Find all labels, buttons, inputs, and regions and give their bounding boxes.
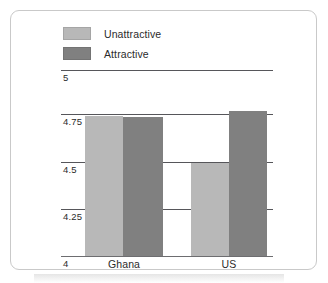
gridline-4-baseline: [61, 256, 273, 257]
plot-area: 5 4.75 4.5 4.25 4 Ghana US: [11, 11, 317, 270]
xtick-label-us: US: [198, 258, 260, 270]
ytick-label-5: 5: [63, 72, 68, 83]
bar-ghana-unattractive: [85, 116, 123, 256]
bar-ghana-attractive: [123, 117, 163, 256]
ytick-label-4: 4: [63, 258, 68, 269]
bar-us-unattractive: [191, 163, 229, 256]
ytick-label-4-75: 4.75: [63, 116, 82, 127]
scan-edge-shadow: [34, 274, 284, 283]
chart-card: Unattractive Attractive 5 4.75 4.5 4.25 …: [10, 10, 317, 270]
gridline-5: [61, 70, 273, 71]
ytick-label-4-25: 4.25: [63, 211, 82, 222]
bar-us-attractive: [229, 111, 267, 256]
ytick-label-4-5: 4.5: [63, 164, 77, 175]
xtick-label-ghana: Ghana: [89, 258, 159, 270]
